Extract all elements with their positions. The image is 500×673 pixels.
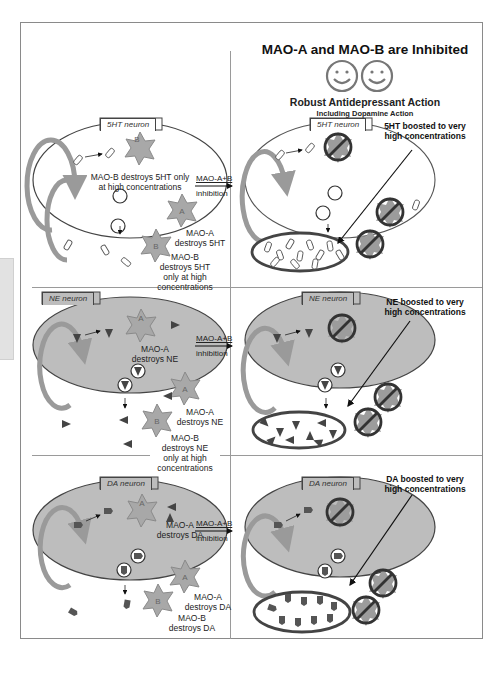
mao-b-internal-5ht-line2: at high concentrations xyxy=(80,182,200,192)
svg-text:A: A xyxy=(138,314,144,323)
svg-text:B: B xyxy=(154,417,159,426)
svg-text:A: A xyxy=(179,207,185,216)
callout-da-line2: high concentrations xyxy=(370,484,480,494)
neuron-label-da-left: DA neuron xyxy=(100,477,152,490)
mao-a-internal-ne-line1: MAO-A xyxy=(120,344,190,354)
callout-ne-line2: high concentrations xyxy=(370,307,480,317)
mao-b-destroys-ne-line1: MAO-B xyxy=(150,433,220,443)
mao-b-destroys-5ht-line1: MAO-B xyxy=(150,252,220,262)
neuron-label-5ht-right: 5HT neuron xyxy=(310,118,366,131)
mao-diagram: B A B A A B A A B xyxy=(0,0,500,673)
svg-text:B: B xyxy=(153,242,158,251)
mao-a-internal-ne-line2: destroys NE xyxy=(120,354,190,364)
neuron-label-da-right: DA neuron xyxy=(302,477,354,490)
callout-5ht-line1: 5HT boosted to very xyxy=(370,121,480,131)
mao-a-destroys-da-line2: destroys DA xyxy=(178,602,238,612)
mao-a-destroys-ne-line2: destroys NE xyxy=(165,417,235,427)
svg-text:A: A xyxy=(182,573,188,582)
mao-a-destroys-5ht-line2: destroys 5HT xyxy=(165,238,235,248)
svg-text:B: B xyxy=(134,135,139,144)
inhibition-arrow-label-5ht-1: MAO-A+B xyxy=(196,174,232,184)
mao-b-internal-5ht-line1: MAO-B destroys 5HT only xyxy=(80,172,200,182)
inhibition-arrow-label-da-1: MAO-A+B xyxy=(196,519,232,529)
svg-text:B: B xyxy=(155,597,160,606)
mao-b-destroys-da-line2: destroys DA xyxy=(162,623,222,633)
mao-b-destroys-5ht-line2: destroys 5HT xyxy=(150,262,220,272)
neuron-label-ne-left: NE neuron xyxy=(42,292,94,305)
mao-b-destroys-ne-line3: only at high xyxy=(150,453,220,463)
svg-text:A: A xyxy=(139,499,145,508)
da-neuron-right xyxy=(243,477,435,632)
mao-a-destroys-5ht-line1: MAO-A xyxy=(165,228,235,238)
neuron-label-ne-right: NE neuron xyxy=(302,292,354,305)
svg-text:A: A xyxy=(182,385,188,394)
mao-b-destroys-da-line1: MAO-B xyxy=(162,613,222,623)
callout-5ht-line2: high concentrations xyxy=(370,131,480,141)
mao-a-destroys-da-line1: MAO-A xyxy=(178,592,238,602)
neuron-label-5ht-left: 5HT neuron xyxy=(100,118,156,131)
callout-ne-line1: NE boosted to very xyxy=(370,297,480,307)
inhibition-arrow-label-da-2: inhibition xyxy=(196,534,228,544)
mao-b-destroys-5ht-line3: only at high xyxy=(150,272,220,282)
mao-b-destroys-5ht-line4: concentrations xyxy=(150,282,220,292)
mao-b-destroys-ne-line2: destroys NE xyxy=(150,443,220,453)
mao-a-destroys-ne-line1: MAO-A xyxy=(165,407,235,417)
inhibition-arrow-label-ne-2: inhibition xyxy=(196,349,228,359)
inhibition-arrow-label-5ht-2: inhibition xyxy=(196,189,228,199)
inhibition-arrow-label-ne-1: MAO-A+B xyxy=(196,334,232,344)
mao-b-destroys-ne-line4: concentrations xyxy=(150,463,220,473)
callout-da-line1: DA boosted to very xyxy=(370,474,480,484)
